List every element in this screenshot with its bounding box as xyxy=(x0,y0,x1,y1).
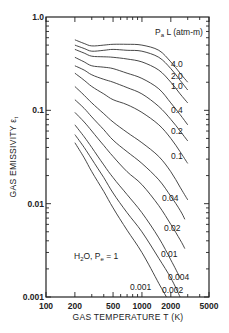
y-tick-label: 1.0 xyxy=(32,12,44,22)
curve-label-0.4: 0.4 xyxy=(171,105,183,115)
x-tick-label: 2000 xyxy=(161,301,180,311)
x-tick-label: 5000 xyxy=(200,301,219,311)
y-axis-title: GAS EMISSIVITY εt xyxy=(8,117,19,198)
x-tick-label: 1000 xyxy=(132,301,151,311)
curve-label-0.04: 0.04 xyxy=(162,193,179,203)
curve-label-0.1: 0.1 xyxy=(171,151,183,161)
curve-0.002 xyxy=(75,135,180,297)
x-tick-label: 200 xyxy=(68,301,82,311)
x-tick-labels: 100200500100020005000 xyxy=(39,301,219,311)
x-tick-label: 500 xyxy=(106,301,120,311)
curve-label-4.0: 4.0 xyxy=(171,59,183,69)
emissivity-chart: 100200500100020005000 0.0010.010.11.0 4.… xyxy=(0,0,229,333)
y-tick-label: 0.01 xyxy=(27,199,44,209)
curve-0.001 xyxy=(75,143,166,297)
curve-label-0.01: 0.01 xyxy=(161,249,178,259)
curve-label-0.004: 0.004 xyxy=(168,272,190,282)
y-tick-label: 0.1 xyxy=(32,105,44,115)
annotation-label: H2O, Pe = 1 xyxy=(74,251,119,262)
x-axis-title: GAS TEMPERATURE T (K) xyxy=(73,312,184,322)
curve-label-0.002: 0.002 xyxy=(162,285,184,295)
x-tick-label: 100 xyxy=(39,301,53,311)
y-tick-label: 0.001 xyxy=(23,292,45,302)
curve-label-0.2: 0.2 xyxy=(171,126,183,136)
curve-label-2.0: 2.0 xyxy=(171,71,183,81)
y-tick-labels: 0.0010.010.11.0 xyxy=(23,12,45,302)
curve-label-1.0: 1.0 xyxy=(171,81,183,91)
curve-label-0.02: 0.02 xyxy=(164,223,181,233)
curve-label-0.001: 0.001 xyxy=(130,282,152,292)
legend-title: Pa L (atm-m) xyxy=(155,27,203,38)
